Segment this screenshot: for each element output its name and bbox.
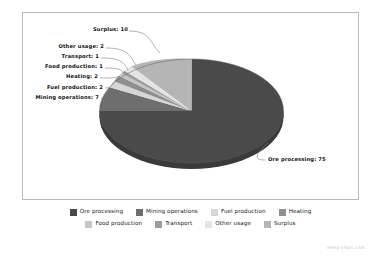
watermark: meta-chart.com <box>327 245 365 250</box>
legend-label: Ore processing <box>80 209 123 215</box>
legend-item-heating[interactable]: Heating <box>279 209 312 216</box>
legend-item-fuel-production[interactable]: Fuel production <box>211 209 266 216</box>
legend-label: Transport <box>165 221 192 227</box>
legend-label: Other usage <box>215 221 251 227</box>
legend-item-mining-operations[interactable]: Mining operations <box>136 209 198 216</box>
pie-label-transport: Transport: 1 <box>0 54 99 59</box>
pie-label-ore-processing: Ore processing: 75 <box>268 157 368 162</box>
legend-item-food-production[interactable]: Food production <box>85 221 142 228</box>
legend-swatch-icon <box>85 221 92 228</box>
legend-row-1: Ore processing Mining operations Fuel pr… <box>22 206 359 218</box>
pie-label-food-production: Food production: 1 <box>0 64 103 69</box>
pie-label-surplus: Surplus: 10 <box>0 27 128 32</box>
legend-item-other-usage[interactable]: Other usage <box>205 221 251 228</box>
legend-swatch-icon <box>155 221 162 228</box>
legend-swatch-icon <box>70 209 77 216</box>
legend-swatch-icon <box>264 221 271 228</box>
legend-label: Fuel production <box>221 209 266 215</box>
legend-label: Food production <box>95 221 142 227</box>
legend-item-transport[interactable]: Transport <box>155 221 192 228</box>
legend-swatch-icon <box>136 209 143 216</box>
chart-plot-frame <box>22 12 359 200</box>
legend-label: Mining operations <box>146 209 198 215</box>
legend-swatch-icon <box>205 221 212 228</box>
legend-row-2: Food production Transport Other usage Su… <box>22 218 359 230</box>
pie-label-fuel-production: Fuel production: 2 <box>0 85 103 90</box>
legend-label: Heating <box>289 209 312 215</box>
legend-item-surplus[interactable]: Surplus <box>264 221 296 228</box>
legend-swatch-icon <box>211 209 218 216</box>
legend-label: Surplus <box>274 221 296 227</box>
legend-item-ore-processing[interactable]: Ore processing <box>70 209 123 216</box>
pie-label-mining-operations: Mining operations: 7 <box>0 95 99 100</box>
legend-swatch-icon <box>279 209 286 216</box>
chart-legend: Ore processing Mining operations Fuel pr… <box>22 206 359 234</box>
pie-label-other-usage: Other usage: 2 <box>0 44 104 49</box>
pie-label-heating: Heating: 2 <box>0 74 98 79</box>
